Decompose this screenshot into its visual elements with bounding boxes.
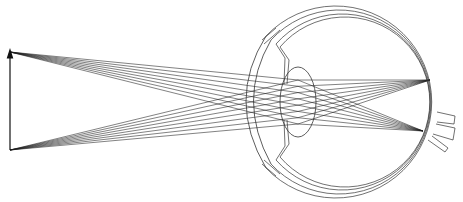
light-rays — [10, 52, 430, 150]
object-arrow — [8, 50, 13, 150]
light-ray — [10, 52, 430, 80]
diagram-canvas — [0, 0, 463, 202]
optic-nerve — [428, 112, 455, 152]
sclera-outer — [266, 6, 432, 198]
light-ray — [10, 52, 430, 86]
light-ray — [10, 52, 430, 124]
light-ray — [10, 124, 423, 150]
light-ray — [10, 52, 430, 105]
eye-optics-diagram: Image formation in the human eye — [0, 0, 463, 202]
eyeball — [266, 6, 432, 198]
